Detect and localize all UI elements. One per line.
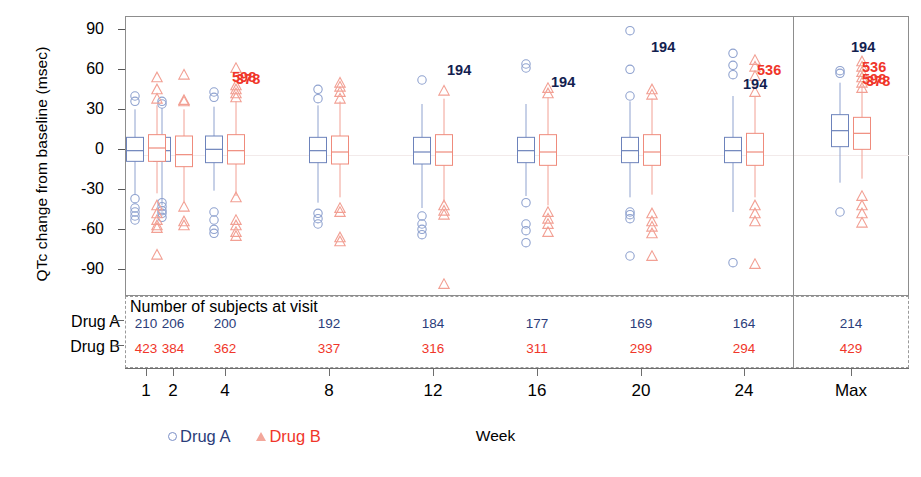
y-tick-label: -60 bbox=[58, 220, 104, 238]
chart-canvas: QTc change from baseline (msec) 9060300-… bbox=[0, 0, 921, 477]
y-tick-mark bbox=[118, 149, 125, 150]
outlier-marker bbox=[729, 70, 737, 78]
outlier-marker bbox=[179, 69, 189, 79]
subject-count: 299 bbox=[630, 341, 653, 356]
y-tick-mark bbox=[118, 69, 125, 70]
outlier-marker bbox=[210, 208, 218, 216]
outlier-marker bbox=[626, 65, 634, 73]
outlier-marker bbox=[314, 220, 322, 228]
legend-item-drug-a[interactable]: Drug A bbox=[168, 427, 230, 446]
outlier-marker bbox=[522, 238, 530, 246]
legend: Drug A Drug B bbox=[168, 427, 321, 446]
outlier-subject-id: 536 bbox=[757, 62, 781, 78]
outlier-marker bbox=[179, 201, 189, 211]
row-tick-mark bbox=[112, 320, 124, 321]
x-tick-label: 8 bbox=[324, 381, 333, 401]
outlier-marker bbox=[418, 212, 426, 220]
outlier-marker bbox=[647, 228, 657, 238]
outlier-marker bbox=[439, 209, 449, 219]
subject-count: 384 bbox=[162, 341, 185, 356]
boxplot-drug-b bbox=[228, 63, 245, 241]
subject-count: 362 bbox=[214, 341, 237, 356]
x-tick-mark bbox=[329, 369, 330, 376]
row-label-drug-b: Drug B bbox=[0, 338, 120, 356]
boxplot-drug-a bbox=[518, 60, 535, 247]
x-tick-label: 12 bbox=[424, 381, 443, 401]
x-axis-line bbox=[125, 368, 909, 369]
outlier-marker bbox=[729, 49, 737, 57]
outlier-marker bbox=[335, 207, 345, 217]
outlier-marker bbox=[335, 236, 345, 246]
outlier-marker bbox=[210, 88, 218, 96]
row-label-drug-a: Drug A bbox=[0, 313, 120, 331]
outlier-subject-id: 194 bbox=[447, 62, 471, 78]
legend-label-drug-b: Drug B bbox=[269, 427, 320, 446]
circle-marker-icon bbox=[168, 432, 177, 441]
outlier-marker bbox=[626, 92, 634, 100]
subject-count: 337 bbox=[318, 341, 341, 356]
outlier-marker bbox=[626, 26, 634, 34]
outlier-marker bbox=[750, 259, 760, 269]
outlier-marker bbox=[439, 85, 449, 95]
outlier-marker bbox=[131, 92, 139, 100]
x-tick-label: 16 bbox=[528, 381, 547, 401]
outlier-marker bbox=[131, 194, 139, 202]
subject-count: 200 bbox=[214, 316, 237, 331]
x-axis-title-text: Week bbox=[476, 427, 515, 444]
outlier-marker bbox=[626, 252, 634, 260]
x-tick-mark bbox=[744, 369, 745, 376]
boxplot-layer bbox=[125, 16, 909, 296]
y-tick-label: 0 bbox=[58, 140, 104, 158]
x-tick-mark bbox=[173, 369, 174, 376]
subject-count: 429 bbox=[840, 341, 863, 356]
x-tick-mark bbox=[641, 369, 642, 376]
outlier-marker bbox=[210, 216, 218, 224]
x-tick-label: Max bbox=[835, 381, 867, 401]
subject-count: 311 bbox=[526, 341, 548, 356]
y-tick-label: -30 bbox=[58, 180, 104, 198]
legend-label-drug-a: Drug A bbox=[180, 427, 230, 446]
y-tick-mark bbox=[118, 269, 125, 270]
y-tick-mark bbox=[118, 189, 125, 190]
y-tick-label: 30 bbox=[58, 100, 104, 118]
legend-item-drug-b[interactable]: Drug B bbox=[256, 427, 320, 446]
boxplot-drug-a bbox=[206, 88, 223, 238]
x-tick-mark bbox=[146, 369, 147, 376]
x-tick-label: 24 bbox=[735, 381, 754, 401]
subject-count: 184 bbox=[422, 316, 445, 331]
boxplot-drug-a bbox=[832, 66, 849, 216]
x-tick-mark bbox=[433, 369, 434, 376]
row-tick-mark bbox=[112, 345, 124, 346]
outlier-subject-id: 194 bbox=[851, 39, 875, 55]
boxplot-drug-a bbox=[414, 76, 431, 239]
x-tick-mark bbox=[225, 369, 226, 376]
outlier-marker bbox=[836, 208, 844, 216]
boxplot-drug-a bbox=[622, 26, 639, 260]
outlier-marker bbox=[314, 94, 322, 102]
boxplot-drug-b bbox=[436, 85, 453, 288]
outlier-subject-id: 194 bbox=[651, 39, 675, 55]
x-axis-title: Week bbox=[0, 427, 921, 445]
outlier-marker bbox=[729, 61, 737, 69]
y-tick-label: 90 bbox=[58, 20, 104, 38]
table-max-divider bbox=[793, 296, 794, 368]
outlier-subject-id: 194 bbox=[743, 76, 767, 92]
outlier-marker bbox=[857, 217, 867, 227]
outlier-marker bbox=[152, 93, 162, 103]
subject-count: 210 bbox=[135, 316, 158, 331]
subject-count: 192 bbox=[318, 316, 341, 331]
subject-count: 169 bbox=[630, 316, 653, 331]
boxplot-drug-b bbox=[644, 84, 661, 260]
x-tick-label: 20 bbox=[632, 381, 651, 401]
y-tick-mark bbox=[118, 109, 125, 110]
outlier-marker bbox=[231, 231, 241, 241]
subject-count: 164 bbox=[733, 316, 756, 331]
triangle-marker-icon bbox=[256, 432, 266, 441]
y-tick-mark bbox=[118, 29, 125, 30]
boxplot-drug-a bbox=[310, 85, 327, 228]
subject-count: 294 bbox=[733, 341, 756, 356]
outlier-marker bbox=[179, 220, 189, 230]
subject-count: 423 bbox=[135, 341, 158, 356]
outlier-marker bbox=[418, 230, 426, 238]
outlier-marker bbox=[729, 258, 737, 266]
